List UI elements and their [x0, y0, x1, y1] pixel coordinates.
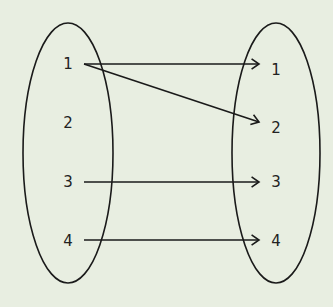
domain-set-element-4: 4	[63, 232, 73, 250]
domain-set-element-3: 3	[63, 173, 73, 191]
codomain-set-element-4: 4	[271, 232, 281, 250]
arrow-1-to-2	[84, 64, 259, 124]
codomain-set-element-2: 2	[271, 119, 281, 137]
domain-set-element-2: 2	[63, 114, 73, 132]
codomain-set-element-3: 3	[271, 173, 281, 191]
codomain-set-element-1: 1	[271, 61, 281, 79]
mapping-diagram: 12341234	[0, 0, 333, 307]
arrow-4-to-4	[84, 235, 259, 245]
arrow-1-to-1	[84, 59, 259, 69]
domain-set-element-1: 1	[63, 55, 73, 73]
